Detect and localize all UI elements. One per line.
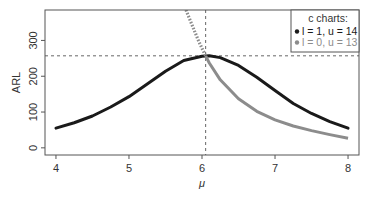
legend-marker-series-2 [295,40,299,44]
x-axis: 45678 [53,155,351,174]
y-tick-label: 100 [27,103,39,121]
series-1-line [56,56,348,128]
x-tick-label: 5 [126,162,132,174]
series-2-line [206,56,348,138]
series-2-line-dotted [186,10,206,56]
arl-chart: 45678 0100200300 μ ARL c charts: l = 1, … [0,0,373,198]
legend-marker-series-1 [295,29,299,33]
y-axis-title: ARL [10,72,22,93]
y-tick-label: 200 [27,67,39,85]
x-axis-title: μ [198,177,205,189]
legend-title: c charts: [308,12,348,24]
x-tick-label: 8 [345,162,351,174]
legend: c charts: l = 1, u = 14 l = 0, u = 13 [291,10,359,52]
x-tick-label: 7 [272,162,278,174]
x-tick-label: 6 [199,162,205,174]
y-tick-label: 300 [27,31,39,49]
x-tick-label: 4 [53,162,59,174]
legend-label-series-2: l = 0, u = 13 [302,36,358,48]
series-1 [56,56,348,128]
y-axis: 0100200300 [27,31,45,151]
y-tick-label: 0 [27,145,39,151]
